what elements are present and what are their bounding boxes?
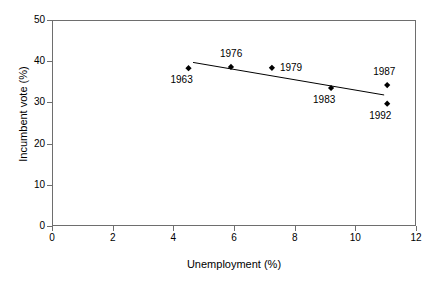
data-point-marker [384,82,390,88]
point-annotation-label: 1979 [280,63,302,73]
point-annotation-label: 1963 [171,75,193,85]
data-point-marker [185,65,191,71]
point-annotation-label: 1987 [373,67,395,77]
scatter-chart-figure: 0 10 20 30 40 50 0 2 4 6 8 10 12 Incumbe… [0,0,447,287]
data-point-marker [384,101,390,107]
data-layer [0,0,447,287]
point-annotation-label: 1976 [220,49,242,59]
data-point-marker [269,65,275,71]
point-annotation-label: 1992 [369,111,391,121]
point-annotation-label: 1983 [313,95,335,105]
